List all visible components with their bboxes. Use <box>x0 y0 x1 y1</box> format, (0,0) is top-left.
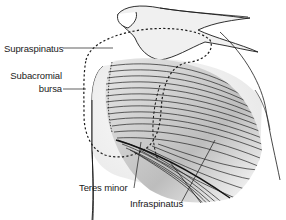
label-subacromial: Subacromial <box>4 70 62 81</box>
label-teres-minor: Teres minor <box>79 182 128 193</box>
label-supraspinatus: Supraspinatus <box>4 43 62 54</box>
acromion <box>117 6 258 60</box>
label-infraspinatus: Infraspinatus <box>130 198 183 209</box>
shoulder-anatomy-diagram: Supraspinatus Subacromial bursa Teres mi… <box>0 0 286 220</box>
label-bursa: bursa <box>4 83 62 94</box>
